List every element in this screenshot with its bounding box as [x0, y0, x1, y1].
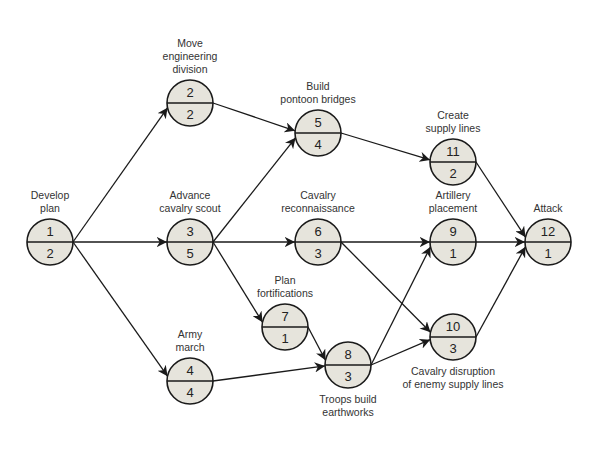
node-id: 3 [186, 224, 193, 239]
node-duration: 2 [186, 107, 193, 122]
edge-3-7 [213, 242, 263, 322]
node-8[interactable]: 83Troops buildearthworks [319, 342, 377, 418]
edge-8-10 [371, 340, 430, 365]
node-id: 2 [186, 85, 193, 100]
nodes-layer: 12Developplan22Moveengineeringdivision35… [27, 37, 571, 418]
node-label: reconnaissance [281, 202, 355, 214]
node-10[interactable]: 103Cavalry disruptionof enemy supply lin… [403, 314, 504, 390]
node-duration: 3 [344, 369, 351, 384]
node-label: Advance [170, 189, 211, 201]
node-label: Attack [533, 202, 563, 214]
node-label: pontoon bridges [280, 93, 355, 105]
node-label: of enemy supply lines [403, 378, 504, 390]
node-id: 7 [281, 309, 288, 324]
node-label: placement [429, 202, 478, 214]
node-duration: 3 [314, 246, 321, 261]
node-id: 4 [186, 363, 193, 378]
node-id: 8 [344, 347, 351, 362]
node-id: 10 [446, 319, 460, 334]
node-label: Plan [274, 274, 295, 286]
node-id: 1 [46, 224, 53, 239]
edge-10-12 [476, 247, 526, 337]
node-4[interactable]: 44Armymarch [167, 328, 213, 404]
node-label: Army [178, 328, 203, 340]
edge-8-9 [371, 247, 431, 365]
edge-1-2 [73, 108, 168, 242]
node-1[interactable]: 12Developplan [27, 189, 73, 265]
node-6[interactable]: 63Cavalryreconnaissance [281, 189, 355, 265]
node-label: march [175, 341, 204, 353]
node-label: Cavalry [300, 189, 336, 201]
node-2[interactable]: 22Moveengineeringdivision [163, 37, 218, 126]
edge-7-8 [308, 327, 326, 360]
edge-2-5 [213, 103, 295, 131]
node-duration: 2 [46, 246, 53, 261]
node-duration: 3 [449, 341, 456, 356]
node-label: fortifications [257, 287, 313, 299]
node-label: supply lines [426, 122, 481, 134]
edge-3-5 [213, 138, 296, 242]
node-label: Build [306, 80, 330, 92]
node-label: plan [40, 202, 60, 214]
edge-1-4 [73, 242, 168, 376]
node-duration: 1 [281, 331, 288, 346]
node-label: Cavalry disruption [411, 365, 495, 377]
node-9[interactable]: 91Artilleryplacement [429, 189, 478, 265]
node-label: division [172, 63, 207, 75]
node-12[interactable]: 121Attack [525, 202, 571, 265]
node-label: cavalry scout [159, 202, 220, 214]
node-label: engineering [163, 50, 218, 62]
node-label: Move [177, 37, 203, 49]
edge-11-12 [476, 162, 526, 237]
node-11[interactable]: 112Createsupply lines [426, 109, 481, 185]
node-3[interactable]: 35Advancecavalry scout [159, 189, 220, 265]
node-label: Artillery [435, 189, 471, 201]
node-duration: 5 [186, 246, 193, 261]
edge-6-10 [341, 242, 431, 332]
edge-4-8 [213, 366, 325, 381]
node-5[interactable]: 54Buildpontoon bridges [280, 80, 355, 156]
node-duration: 1 [449, 246, 456, 261]
edge-5-11 [341, 133, 430, 160]
node-duration: 1 [544, 246, 551, 261]
node-label: Develop [31, 189, 70, 201]
node-id: 11 [446, 144, 460, 159]
node-label: Create [437, 109, 469, 121]
node-duration: 4 [186, 385, 193, 400]
node-duration: 4 [314, 137, 321, 152]
node-duration: 2 [449, 166, 456, 181]
node-id: 12 [541, 224, 555, 239]
node-id: 6 [314, 224, 321, 239]
node-id: 9 [449, 224, 456, 239]
node-id: 5 [314, 115, 321, 130]
node-7[interactable]: 71Planfortifications [257, 274, 313, 350]
node-label: earthworks [322, 406, 373, 418]
network-diagram: 12Developplan22Moveengineeringdivision35… [0, 0, 594, 449]
node-label: Troops build [319, 393, 377, 405]
